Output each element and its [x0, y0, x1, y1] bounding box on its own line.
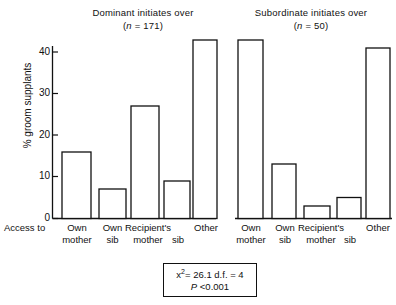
statistics-box: x2= 26.1 d.f. = 4 P <0.001: [163, 263, 257, 297]
bar-dominant-own-sib: [99, 189, 126, 219]
cat-label-subordinate-recipients-sib: sib: [339, 234, 361, 246]
cat-label-subordinate-other: Other: [362, 222, 394, 234]
plot-area: [0, 0, 396, 305]
bar-subordinate-recipients-mother: [304, 206, 330, 219]
chi-square-line: x2= 26.1 d.f. = 4: [176, 269, 243, 280]
bar-dominant-recipients-sib: [164, 181, 190, 219]
bar-subordinate-own-mother: [238, 40, 263, 219]
bar-subordinate-other: [366, 48, 390, 219]
bar-group-dominant: [62, 40, 217, 219]
cat-label-subordinate-own-mother: Own mother: [232, 222, 270, 246]
bar-dominant-own-mother: [62, 152, 91, 219]
cat-label-dominant-recipients-mother: Recipient's mother: [124, 222, 172, 246]
bar-subordinate-recipients-sib: [337, 198, 361, 219]
access-to-label: Access to: [4, 222, 45, 233]
bar-dominant-recipients-mother: [131, 106, 159, 219]
y-axis-ticks: [53, 52, 59, 219]
cat-label-dominant-other: Other: [190, 222, 222, 234]
bar-group-subordinate: [238, 40, 390, 219]
chart-figure: Dominant initiates over (n = 171) Subord…: [0, 0, 396, 305]
bar-subordinate-own-sib: [272, 164, 296, 219]
p-value-line: P <0.001: [168, 281, 252, 293]
cat-label-dominant-recipients-sib: sib: [166, 234, 190, 246]
cat-label-dominant-own-mother: Own mother: [58, 222, 96, 246]
bar-dominant-other: [193, 40, 217, 219]
